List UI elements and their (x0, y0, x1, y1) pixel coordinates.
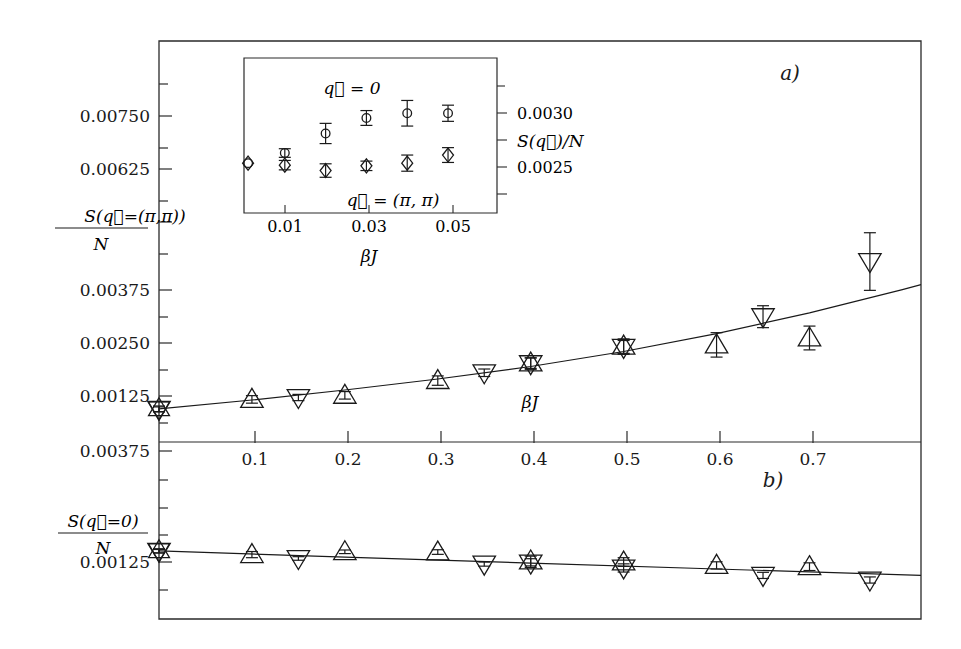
panel-b-y-axis-label: S(q⃗=0) N (58, 511, 148, 558)
panel-b-tag: b) (763, 468, 784, 492)
panel-a-tag: a) (780, 61, 800, 85)
y-tick-label: 0.00375 (80, 441, 150, 461)
panel-a-y-tick-labels: 0.00750 0.00625 0.00375 0.00250 0.00125 (80, 106, 150, 406)
inset-y-tick-label: 0.0030 (517, 104, 573, 123)
inset-annotation-q-pipi: q⃗ = (π, π) (347, 190, 440, 210)
y-tick-label: 0.00750 (80, 106, 150, 126)
x-tick-label: 0.2 (334, 449, 361, 469)
inset-ylabel: S(q⃗)/N (517, 131, 585, 151)
inset-x-tick-label: 0.01 (267, 217, 303, 236)
inset-x-tick-labels: 0.01 0.03 0.05 (267, 217, 471, 236)
inset-xlabel: βJ (360, 246, 379, 266)
inset-data-layer (243, 100, 454, 177)
series-down-triangle (148, 233, 881, 421)
panel-b-y-tick-labels: 0.00375 0.00125 (80, 441, 150, 572)
series-down-triangle (148, 543, 881, 591)
panel-a-ylabel-numerator: S(q⃗=(π,π)) (84, 206, 185, 226)
y-tick-label: 0.00125 (80, 552, 150, 572)
series-q-0 (244, 100, 454, 167)
panel-a-ylabel-denominator: N (93, 234, 110, 254)
inset-y-ticks (497, 86, 507, 194)
x-tick-label: 0.7 (799, 449, 826, 469)
outer-frame (159, 41, 921, 619)
figure-root: 0.00750 0.00625 0.00375 0.00250 0.00125 … (0, 0, 961, 649)
inset-x-tick-label: 0.05 (435, 217, 471, 236)
panel-b-ylabel-numerator: S(q⃗=0) (67, 511, 138, 531)
inset-annotation-q-zero: q⃗ = 0 (324, 78, 381, 98)
inset-y-tick-label: 0.0025 (517, 158, 573, 177)
figure-canvas: 0.00750 0.00625 0.00375 0.00250 0.00125 … (0, 0, 961, 649)
y-tick-label: 0.00375 (80, 280, 150, 300)
x-tick-label: 0.6 (706, 449, 733, 469)
inset-x-tick-label: 0.03 (351, 217, 387, 236)
x-tick-label: 0.1 (241, 449, 268, 469)
y-tick-label: 0.00125 (80, 386, 150, 406)
panel-a-xlabel: βJ (521, 392, 540, 412)
panel-a-y-axis-label: S(q⃗=(π,π)) N (55, 206, 186, 254)
x-tick-label: 0.4 (520, 449, 547, 469)
panel-b-data-layer (148, 540, 921, 591)
y-tick-label: 0.00250 (80, 333, 150, 353)
panel-a-y-ticks (159, 84, 172, 423)
y-tick-label: 0.00625 (80, 159, 150, 179)
series-q-pi-pi- (243, 148, 454, 178)
fit-curve (159, 285, 921, 409)
panel-b-ylabel-denominator: N (95, 538, 112, 558)
x-tick-label: 0.3 (427, 449, 454, 469)
shared-x-tick-labels: 0.1 0.2 0.3 0.4 0.5 0.6 0.7 (241, 449, 826, 469)
shared-x-ticks (255, 431, 813, 443)
panel-b-y-ticks (159, 451, 172, 590)
x-tick-label: 0.5 (613, 449, 640, 469)
